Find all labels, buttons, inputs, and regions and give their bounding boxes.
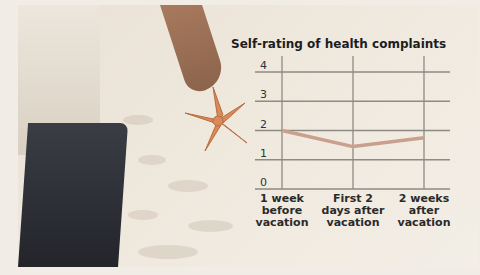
- line-chart: 01234: [0, 0, 480, 275]
- y-tick-label: 4: [260, 59, 267, 72]
- y-tick-label: 2: [260, 118, 267, 131]
- x-tick-label: 2 weeksaftervacation: [389, 193, 459, 229]
- x-tick-label: 1 weekbeforevacation: [247, 193, 317, 229]
- y-axis-ticks: 01234: [260, 59, 267, 189]
- y-tick-label: 3: [260, 88, 267, 101]
- y-tick-label: 0: [260, 176, 267, 189]
- gridlines: [255, 56, 450, 189]
- y-tick-label: 1: [260, 147, 267, 160]
- x-tick-label: First 2days aftervacation: [318, 193, 388, 229]
